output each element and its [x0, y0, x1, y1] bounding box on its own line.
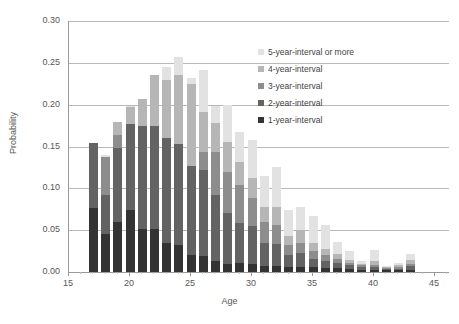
bar-segment: [162, 67, 171, 80]
bar-stack: [89, 143, 98, 272]
x-axis-line: [68, 272, 448, 273]
bar-segment: [321, 225, 330, 248]
legend-label: 2-year-interval: [268, 98, 322, 108]
legend-label: 1-year-interval: [268, 115, 322, 125]
x-minor-tick: [263, 272, 264, 274]
legend-swatch-icon: [258, 66, 264, 72]
bar-segment: [260, 207, 269, 222]
bar-segment: [199, 170, 208, 256]
bar-stack: [162, 67, 171, 272]
bar-segment: [406, 254, 415, 261]
bar-segment: [284, 245, 293, 255]
x-axis-title: Age: [0, 296, 459, 306]
bar-stack: [296, 207, 305, 272]
x-minor-tick: [300, 272, 301, 274]
bar-segment: [150, 75, 159, 125]
bar-segment: [223, 142, 232, 173]
bar-segment: [113, 122, 122, 135]
bar-segment: [199, 70, 208, 113]
bar-segment: [101, 234, 110, 272]
x-minor-tick: [227, 272, 228, 274]
legend-label: 4-year-interval: [268, 64, 322, 74]
bar-segment: [199, 256, 208, 272]
bar-segment: [89, 208, 98, 272]
x-minor-tick: [92, 272, 93, 274]
bar-segment: [126, 124, 135, 210]
bar-stack: [150, 75, 159, 272]
bar-stack: [101, 155, 110, 272]
bar-stack: [260, 176, 269, 272]
x-tick-mark: [312, 272, 313, 276]
chart-figure: Probability 0.000.050.100.150.200.250.30…: [0, 0, 459, 324]
bar-stack: [248, 140, 257, 272]
legend-item[interactable]: 3-year-interval: [258, 77, 408, 94]
x-minor-tick: [385, 272, 386, 274]
x-minor-tick: [397, 272, 398, 274]
x-tick-label: 30: [236, 278, 266, 288]
bar-segment: [345, 251, 354, 260]
bar-segment: [101, 157, 110, 195]
x-minor-tick: [141, 272, 142, 274]
x-minor-tick: [166, 272, 167, 274]
bar-segment: [223, 264, 232, 272]
bar-segment: [260, 222, 269, 243]
bar-segment: [138, 229, 147, 273]
legend-item[interactable]: 4-year-interval: [258, 60, 408, 77]
bar-segment: [309, 216, 318, 243]
gridline: [69, 21, 449, 22]
legend-item[interactable]: 5-year-interval or more: [258, 43, 408, 60]
bar-segment: [272, 244, 281, 267]
bar-segment: [187, 255, 196, 272]
x-tick-label: 25: [175, 278, 205, 288]
bar-segment: [284, 210, 293, 236]
x-tick-mark: [251, 272, 252, 276]
bar-segment: [126, 210, 135, 272]
bar-segment: [296, 243, 305, 253]
bar-segment: [248, 264, 257, 272]
bar-segment: [187, 166, 196, 256]
bar-segment: [223, 105, 232, 142]
bar-segment: [223, 172, 232, 212]
x-minor-tick: [178, 272, 179, 274]
bar-segment: [272, 225, 281, 243]
bar-segment: [162, 80, 171, 139]
x-minor-tick: [288, 272, 289, 274]
bar-stack: [333, 242, 342, 272]
y-tick-label: 0.10: [22, 183, 60, 192]
bar-segment: [223, 213, 232, 265]
legend-item[interactable]: 2-year-interval: [258, 94, 408, 111]
x-minor-tick: [275, 272, 276, 274]
bar-segment: [174, 75, 183, 144]
legend: 5-year-interval or more4-year-interval3-…: [258, 43, 408, 128]
y-axis: Probability 0.000.050.100.150.200.250.30: [0, 0, 68, 324]
bar-segment: [211, 152, 220, 195]
legend-item[interactable]: 1-year-interval: [258, 111, 408, 128]
y-tick-label: 0.00: [22, 267, 60, 276]
bar-segment: [248, 198, 257, 226]
x-tick-mark: [190, 272, 191, 276]
bar-segment: [138, 126, 147, 228]
bar-segment: [150, 126, 159, 230]
x-tick-label: 45: [419, 278, 449, 288]
x-minor-tick: [153, 272, 154, 274]
bar-segment: [309, 251, 318, 259]
bar-stack: [187, 78, 196, 272]
legend-swatch-icon: [258, 100, 264, 106]
legend-label: 5-year-interval or more: [268, 47, 354, 57]
x-tick-label: 15: [53, 278, 83, 288]
x-minor-tick: [105, 272, 106, 274]
bar-stack: [126, 106, 135, 272]
bar-stack: [211, 106, 220, 272]
bar-stack: [138, 99, 147, 272]
y-tick-label: 0.20: [22, 100, 60, 109]
bar-stack: [370, 250, 379, 272]
bar-segment: [284, 236, 293, 245]
bar-segment: [321, 249, 330, 256]
x-tick-mark: [434, 272, 435, 276]
bar-segment: [309, 259, 318, 267]
bar-segment: [284, 255, 293, 267]
bar-segment: [235, 132, 244, 162]
bar-segment: [260, 243, 269, 266]
legend-swatch-icon: [258, 49, 264, 55]
bar-segment: [101, 195, 110, 233]
